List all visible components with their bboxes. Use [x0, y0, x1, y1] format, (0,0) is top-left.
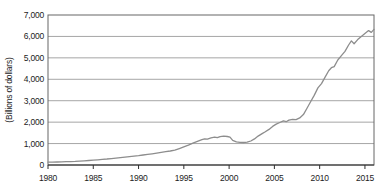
x-tick-label: 2010	[311, 173, 330, 183]
x-tick-label: 2015	[356, 173, 375, 183]
y-tick-label: 0	[39, 160, 44, 170]
line-chart-figure: (Billions of dollars) 01,0002,0003,0004,…	[0, 0, 382, 195]
chart-canvas: 01,0002,0003,0004,0005,0006,0007,0001980…	[0, 0, 382, 195]
y-tick-label: 3,000	[24, 96, 45, 106]
y-tick-label: 4,000	[24, 74, 45, 84]
x-tick-label: 2000	[220, 173, 239, 183]
x-tick-label: 1990	[130, 173, 149, 183]
y-tick-label: 2,000	[24, 117, 45, 127]
x-tick-label: 1985	[84, 173, 103, 183]
y-tick-label: 6,000	[24, 31, 45, 41]
x-tick-label: 1995	[175, 173, 194, 183]
data-line	[48, 29, 374, 162]
plot-border	[48, 15, 374, 165]
y-axis-title: (Billions of dollars)	[4, 57, 14, 122]
x-tick-label: 2005	[265, 173, 284, 183]
y-tick-label: 5,000	[24, 53, 45, 63]
x-tick-label: 1980	[39, 173, 58, 183]
y-tick-label: 7,000	[24, 10, 45, 20]
y-tick-label: 1,000	[24, 139, 45, 149]
